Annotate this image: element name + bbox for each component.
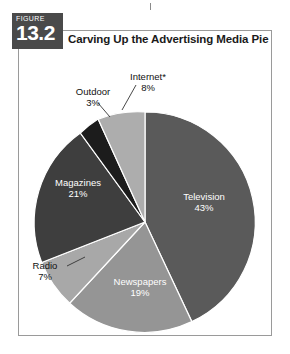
pie-label-newspapers-value: 19%: [99, 287, 181, 298]
pie-slices: [34, 112, 255, 333]
pie-label-outdoor-value: 3%: [62, 97, 124, 108]
figure-badge-number: 13.2: [16, 22, 63, 44]
pie-label-internet: Internet* 8%: [114, 71, 182, 93]
pie-label-radio-name: Radio: [19, 260, 71, 271]
pie-label-radio: Radio 7%: [19, 260, 71, 282]
page-title: Carving Up the Advertising Media Pie: [68, 33, 268, 45]
pie-label-television-value: 43%: [166, 202, 242, 213]
figure-badge: FIGURE 13.2: [12, 13, 63, 49]
page-tick-mark: [150, 3, 151, 10]
pie-label-television-name: Television: [166, 191, 242, 202]
pie-label-newspapers-name: Newspapers: [99, 276, 181, 287]
pie-label-radio-value: 7%: [19, 271, 71, 282]
pie-label-television: Television 43%: [166, 191, 242, 213]
pie-label-internet-name: Internet*: [114, 71, 182, 82]
pie-label-internet-value: 8%: [114, 82, 182, 93]
pie-label-newspapers: Newspapers 19%: [99, 276, 181, 298]
pie-label-magazines-name: Magazines: [40, 177, 116, 188]
pie-label-outdoor: Outdoor 3%: [62, 86, 124, 108]
pie-label-outdoor-name: Outdoor: [62, 86, 124, 97]
pie-label-magazines: Magazines 21%: [40, 177, 116, 199]
pie-label-magazines-value: 21%: [40, 188, 116, 199]
pie-chart: Internet* 8% Outdoor 3% Radio 7% Magazin…: [18, 55, 272, 333]
